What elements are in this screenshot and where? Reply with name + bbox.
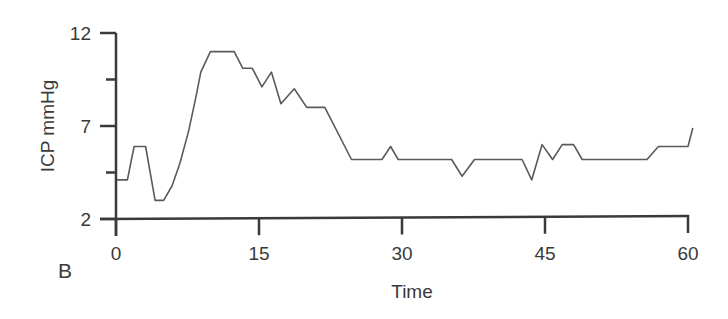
x-tick-label: 15 [248,243,269,264]
x-tick-label: 60 [677,243,698,264]
x-tick-label: 30 [391,243,412,264]
icp-line-chart: 2712 015304560 ICP mmHg Time B [0,0,728,319]
y-ticks: 2712 [70,23,116,230]
y-axis-title: ICP mmHg [37,80,58,173]
icp-series-line [117,52,693,201]
x-ticks: 015304560 [111,215,699,264]
y-tick-label: 7 [80,116,91,137]
x-axis [100,216,689,219]
y-tick-label: 2 [80,209,91,230]
y-tick-label: 12 [70,23,91,44]
panel-label: B [58,259,72,282]
x-axis-title: Time [391,281,433,302]
x-tick-label: 45 [534,243,555,264]
x-tick-label: 0 [111,243,122,264]
